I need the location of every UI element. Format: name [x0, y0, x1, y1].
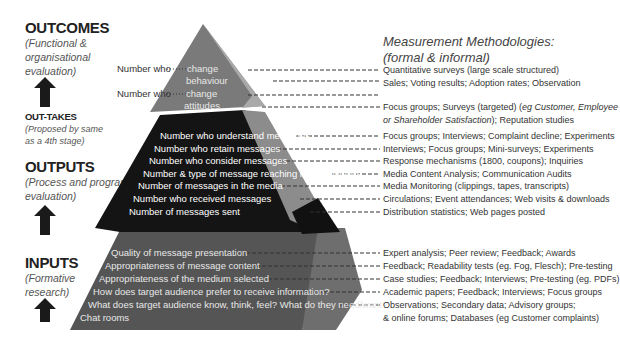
output-label: Number of messages in the media	[138, 180, 283, 191]
outcome-left-label: Number who	[117, 63, 171, 74]
method-item: Quantitative surveys (large scale struct…	[383, 64, 559, 77]
method-item: Academic papers; Feedback; Interviews; F…	[383, 286, 602, 299]
methodologies-heading-line: Measurement Methodologies:	[383, 34, 554, 50]
method-item: Observations; Secondary data; Advisory g…	[383, 299, 576, 312]
outcome-label: behaviour	[186, 75, 228, 86]
output-label: Number of messages sent	[129, 206, 240, 217]
method-item: Sales; Voting results; Adoption rates; O…	[383, 77, 581, 90]
method-item-focus: Focus groups; Surveys (targeted) (eg Cus…	[383, 101, 618, 114]
method-item: Feedback; Readability tests (eg. Fog, Fl…	[383, 260, 613, 273]
input-label: Appropriateness of the medium selected	[99, 273, 269, 284]
method-text: Focus groups; Surveys (targeted) (	[383, 102, 522, 112]
outcome-label: change	[187, 63, 218, 74]
input-label: Chat rooms	[80, 312, 129, 323]
outcome-label: change	[186, 88, 217, 99]
method-item: Distribution statistics; Web pages poste…	[383, 206, 545, 219]
outcome-label: attitudes	[184, 100, 220, 111]
output-label: Number who consider messages	[149, 155, 287, 166]
method-text: ); Reputation studies	[492, 115, 575, 125]
output-label: Number who retain messages	[154, 143, 280, 154]
method-item: Expert analysis; Peer review; Feedback; …	[383, 247, 575, 260]
output-label: Number who received messages	[133, 193, 271, 204]
method-text-italic: eg Customer, Employee	[522, 102, 618, 112]
method-item: Response mechanisms (1800, coupons); Inq…	[383, 155, 583, 168]
method-item: Media Monitoring (clippings, tapes, tran…	[383, 180, 569, 193]
input-label: Quality of message presentation	[111, 247, 247, 258]
input-label: Appropriateness of message content	[105, 260, 260, 271]
outcome-left-label: Number who	[117, 88, 171, 99]
method-item: Focus groups; Interviews; Complaint decl…	[383, 130, 615, 143]
method-item: Circulations; Event attendances; Web vis…	[383, 193, 609, 206]
method-item-focus-cont: or Shareholder Satisfaction); Reputation…	[383, 114, 574, 127]
method-item: & online forums; Databases (eg Customer …	[383, 312, 599, 325]
methodologies-heading: Measurement Methodologies: (formal & inf…	[383, 34, 554, 66]
method-item: Case studies; Feedback; Interviews; Pre-…	[383, 273, 620, 286]
output-label: Number & type of message reaching large …	[143, 168, 362, 179]
input-label: What does target audience know, think, f…	[88, 299, 387, 310]
method-text-italic: or Shareholder Satisfaction	[383, 115, 492, 125]
input-label: How does target audience prefer to recei…	[93, 286, 330, 297]
output-label: Number who understand messages	[160, 130, 310, 141]
